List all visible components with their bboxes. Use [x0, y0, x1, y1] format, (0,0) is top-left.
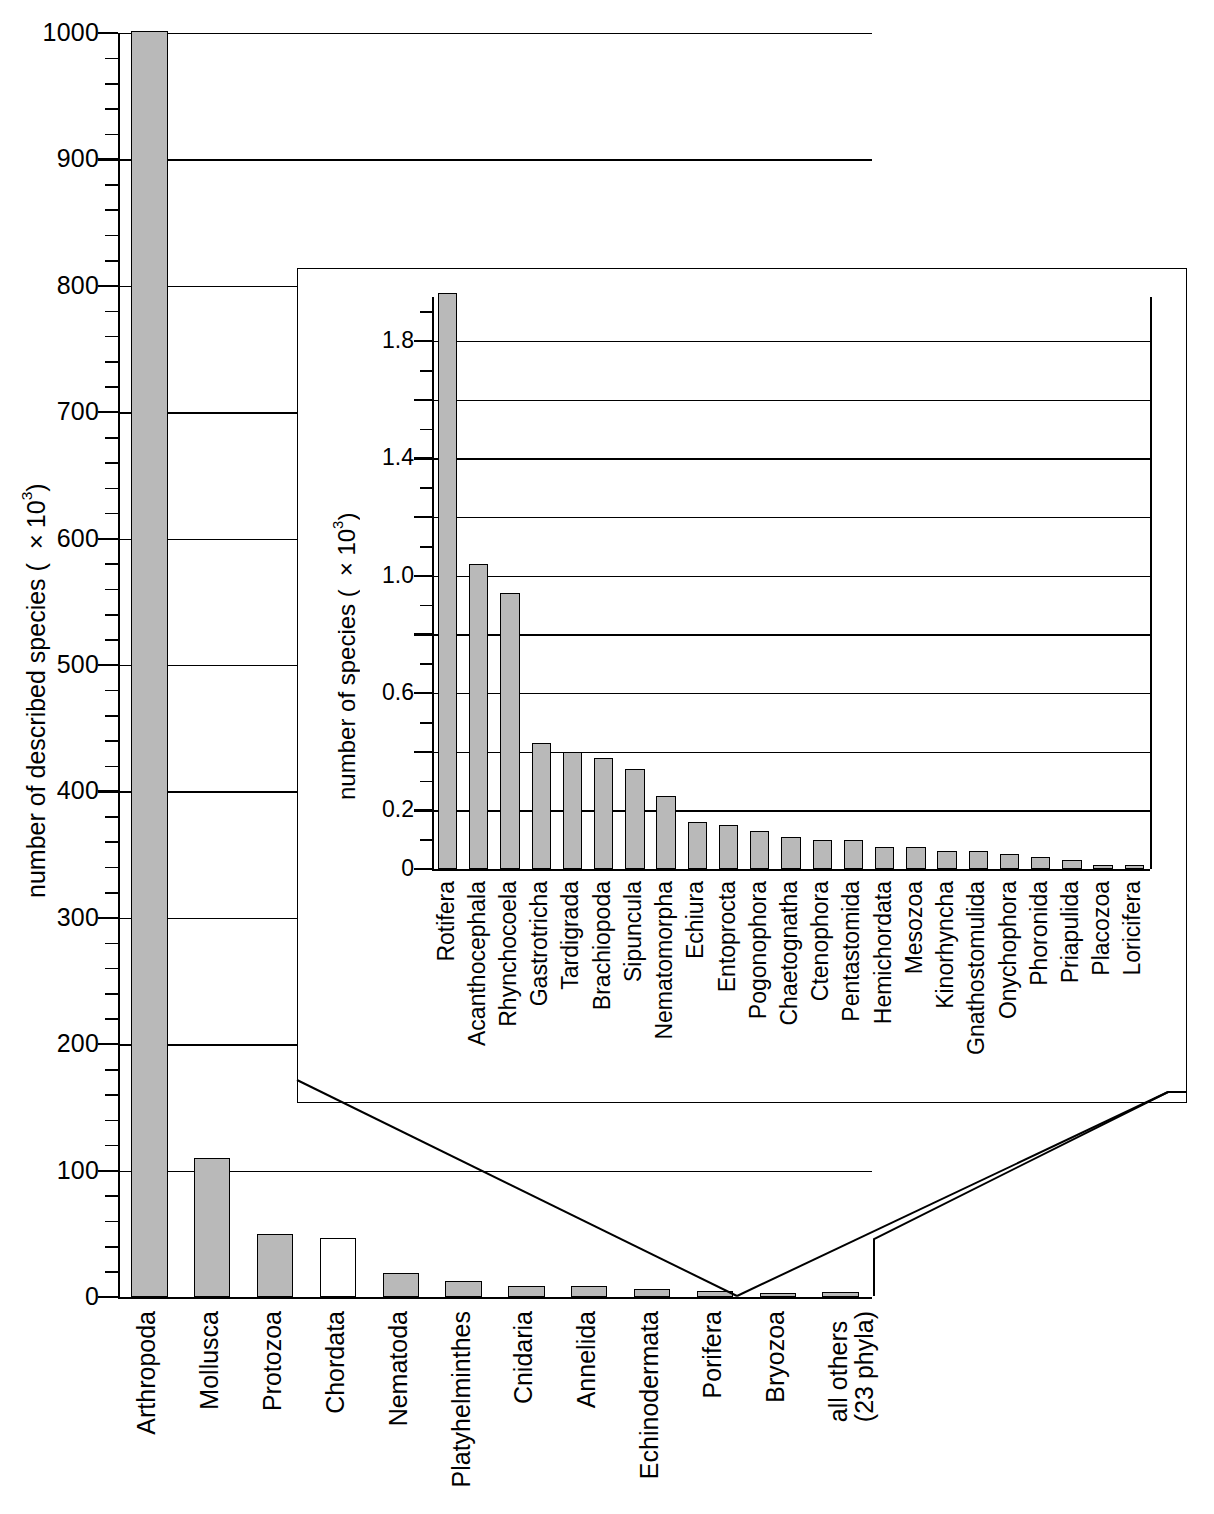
main-x-tick-label: Porifera [699, 1311, 725, 1399]
callout-line-right [874, 1092, 1187, 1296]
inset-x-tick-label: Nematomorpha [652, 881, 676, 1040]
main-y-major-tick [98, 158, 118, 160]
inset-bar [594, 758, 613, 869]
main-x-axis-spine [118, 1297, 872, 1299]
main-y-major-tick [98, 411, 118, 413]
inset-bar [563, 752, 582, 869]
inset-x-tick-label: Acanthocephala [465, 881, 489, 1046]
inset-bar [1031, 857, 1050, 869]
inset-bar [844, 840, 863, 869]
main-x-tick-label: Chordata [322, 1311, 348, 1414]
main-y-minor-tick [105, 488, 118, 490]
main-bar [571, 1286, 607, 1297]
inset-gridline [432, 517, 1150, 518]
main-x-tick-label: Mollusca [196, 1311, 222, 1410]
main-y-minor-tick [105, 816, 118, 818]
inset-y-major-tick [414, 868, 432, 870]
inset-bar [688, 822, 707, 869]
inset-y-major-tick [414, 809, 432, 811]
inset-y-tick-label: 0.6 [324, 681, 414, 704]
inset-gridline [432, 458, 1150, 459]
inset-x-tick-label: Mesozoa [902, 881, 926, 974]
main-y-minor-tick [105, 1195, 118, 1197]
main-x-tick-label: Protozoa [259, 1311, 285, 1411]
inset-bar [1000, 854, 1019, 869]
main-x-tick-label: Bryozoa [762, 1311, 788, 1403]
main-y-minor-tick [105, 1094, 118, 1096]
inset-x-tick-label: Onychophora [996, 881, 1020, 1019]
main-y-major-tick [98, 1043, 118, 1045]
inset-gridline [432, 341, 1150, 342]
main-x-tick-label-line: Platyhelminthes [448, 1311, 474, 1487]
main-y-major-tick [98, 285, 118, 287]
main-y-major-tick [98, 790, 118, 792]
inset-bar [781, 837, 800, 869]
main-y-minor-tick [105, 614, 118, 616]
inset-bar [937, 851, 956, 869]
main-x-tick-label-line: Mollusca [196, 1311, 222, 1410]
main-y-tick-label: 800 [3, 273, 99, 298]
main-y-major-tick [98, 1170, 118, 1172]
inset-bar [719, 825, 738, 869]
main-y-major-tick [98, 538, 118, 540]
inset-y-tick-label: 1.8 [324, 329, 414, 352]
callout-line-left [297, 1080, 737, 1296]
main-y-minor-tick [105, 1246, 118, 1248]
main-y-minor-tick [105, 1145, 118, 1147]
callout-line-right-lower [737, 1092, 1168, 1296]
main-y-minor-tick [105, 108, 118, 110]
main-x-tick-label-line: (23 phyla) [851, 1311, 877, 1422]
inset-right-spine [1150, 297, 1152, 869]
main-x-tick-label-line: Protozoa [259, 1311, 285, 1411]
main-y-minor-tick [105, 386, 118, 388]
main-x-tick-label-line: Bryozoa [762, 1311, 788, 1403]
inset-bar [469, 564, 488, 869]
inset-y-major-tick [414, 340, 432, 342]
main-bar [131, 31, 167, 1297]
main-x-tick-label-line: Arthropoda [133, 1311, 159, 1435]
main-bar [634, 1289, 670, 1297]
inset-gridline [432, 634, 1150, 635]
inset-x-tick-label: Placozoa [1089, 881, 1113, 976]
inset-y-major-tick [414, 692, 432, 694]
inset-y-minor-tick [420, 311, 432, 313]
main-x-tick-label: Arthropoda [133, 1311, 159, 1435]
inset-bar [906, 847, 925, 869]
main-y-axis-title-text: number of described species ( ×10 [22, 500, 50, 898]
inset-bar [625, 769, 644, 869]
main-y-minor-tick [105, 639, 118, 641]
inset-y-axis-title-exponent: 3 [330, 521, 346, 529]
inset-x-tick-label: Priapulida [1058, 881, 1082, 983]
main-bar [445, 1281, 481, 1297]
inset-y-major-tick [414, 399, 432, 401]
main-y-minor-tick [105, 993, 118, 995]
main-y-minor-tick [105, 1271, 118, 1273]
inset-x-tick-label: Chaetognatha [777, 881, 801, 1026]
main-x-tick-label: Nematoda [385, 1311, 411, 1426]
inset-bar [875, 847, 894, 869]
inset-y-tick-label: 1.4 [324, 446, 414, 469]
main-y-minor-tick [105, 715, 118, 717]
inset-y-axis-spine [432, 297, 434, 869]
inset-y-major-tick [414, 633, 432, 635]
inset-x-tick-label: Kinorhyncha [933, 881, 957, 1009]
inset-gridline [432, 400, 1150, 401]
inset-x-axis-spine [432, 869, 1150, 871]
inset-panel [297, 268, 1187, 1103]
inset-y-minor-tick [420, 722, 432, 724]
inset-x-tick-label: Pogonophora [746, 881, 770, 1019]
inset-y-tick-label: 0.2 [324, 798, 414, 821]
inset-bar [813, 840, 832, 869]
main-y-minor-tick [105, 740, 118, 742]
inset-x-tick-label: Ctenophora [808, 881, 832, 1001]
inset-gridline [432, 576, 1150, 577]
inset-bar [750, 831, 769, 869]
main-y-tick-label: 200 [3, 1031, 99, 1056]
main-y-axis-spine [118, 33, 120, 1297]
main-y-minor-tick [105, 311, 118, 313]
inset-y-major-tick [414, 457, 432, 459]
inset-bar [532, 743, 551, 869]
main-y-minor-tick [105, 589, 118, 591]
inset-y-minor-tick [420, 429, 432, 431]
inset-x-tick-label: Loricifera [1120, 881, 1144, 976]
